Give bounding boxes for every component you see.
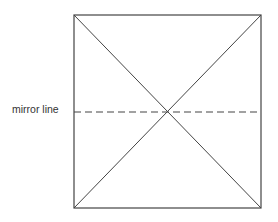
square-diagram <box>0 0 278 222</box>
